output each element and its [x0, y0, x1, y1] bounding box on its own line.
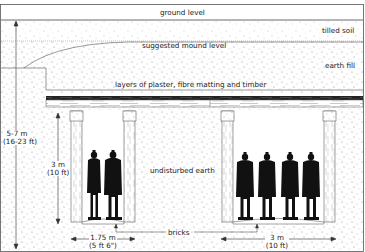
wall-width-m: 1.75 m [89, 234, 117, 241]
pillar-capital [323, 111, 336, 121]
undisturbed-earth-label: undisturbed earth [150, 167, 215, 174]
pit-cross-section-diagram: ground level tilled soil suggested mound… [0, 0, 365, 252]
undisturbed-earth-left [1, 68, 46, 250]
plaster-matting-layer [46, 100, 363, 107]
pillar-capital [70, 111, 83, 121]
left-corridor [70, 110, 136, 224]
tilled-soil-label: tilled soil [322, 27, 354, 34]
wall-width-ft: (5 ft 6") [89, 242, 117, 249]
tilled-soil-layer [1, 20, 363, 41]
pillar-capital [123, 111, 136, 121]
left-corridor-right-pillar [124, 111, 135, 222]
timber-layer [46, 96, 363, 100]
corridor-height-label: 3 m (10 ft) [47, 161, 69, 176]
left-corridor-left-pillar [71, 111, 82, 222]
total-depth-m: 5-7 m [3, 130, 31, 137]
corridor-width-label: 3 m (10 ft) [265, 234, 289, 249]
bricks-label: bricks [168, 229, 189, 236]
corridor-height-m: 3 m [47, 161, 69, 168]
right-corridor [221, 110, 336, 224]
diagram-canvas [0, 0, 365, 252]
earth-fill-label: earth fill [325, 62, 355, 69]
suggested-mound-label: suggested mound level [142, 42, 226, 49]
right-corridor-left-pillar [222, 111, 233, 222]
wall-width-label: 1.75 m (5 ft 6") [89, 234, 117, 249]
ground-level-label: ground level [160, 9, 205, 16]
pillar-capital [221, 111, 234, 121]
total-depth-ft: (16-23 ft) [3, 138, 31, 145]
right-corridor-right-pillar [324, 111, 335, 222]
corridor-height-ft: (10 ft) [47, 169, 69, 176]
roof-layers-label: layers of plaster, fibre matting and tim… [115, 81, 266, 88]
corridor-width-m: 3 m [265, 234, 289, 241]
total-depth-label: 5-7 m (16-23 ft) [3, 130, 31, 145]
corridor-width-ft: (10 ft) [265, 242, 289, 249]
